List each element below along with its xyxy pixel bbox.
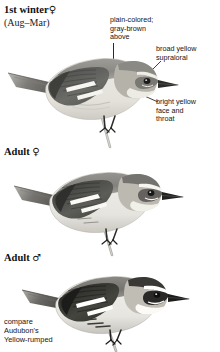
figure-heading-adult-female: Adult ♀ (4, 146, 40, 159)
annotation-upperparts: plain-colored; gray-brown above (110, 16, 153, 42)
annotation-upperparts-line-3: above (110, 32, 130, 41)
female-symbol-icon: ♀ (32, 146, 39, 157)
figure-heading-adult-male: Adult ♂ (4, 252, 41, 265)
figure-heading-first-winter: 1st winter♀ (4, 4, 56, 17)
figure-subheading-first-winter: (Aug–Mar) (4, 17, 50, 29)
figure-heading-text: Adult (4, 146, 30, 157)
female-symbol-icon: ♀ (49, 4, 56, 15)
bird-illustration-adult-male (20, 266, 202, 352)
bird-illustration-first-winter-female (6, 44, 198, 148)
figure-heading-text: 1st winter (4, 4, 49, 15)
bird-illustration-adult-female (12, 160, 198, 256)
field-guide-plate: 1st winter♀ (Aug–Mar) plain-colored; gra… (0, 0, 220, 352)
figure-heading-text: Adult (4, 252, 30, 263)
male-symbol-icon: ♂ (32, 252, 41, 263)
